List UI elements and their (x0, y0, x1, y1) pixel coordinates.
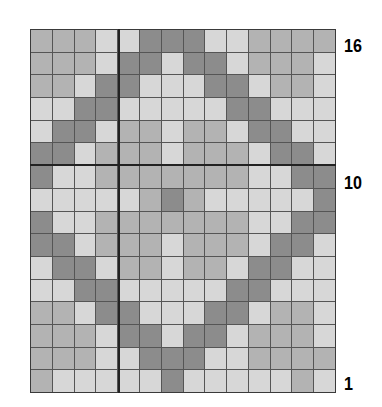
grid-cell (96, 280, 117, 302)
grid-cell (140, 30, 161, 52)
grid-cell (205, 280, 226, 302)
grid-cell (31, 234, 52, 256)
grid-cell (75, 212, 96, 234)
grid-cell (31, 348, 52, 370)
grid-cell (96, 30, 117, 52)
grid-cell (75, 143, 96, 165)
grid-cell (227, 121, 248, 143)
grid-divider-vertical (118, 29, 120, 393)
grid-cell (31, 325, 52, 347)
grid-cell (140, 121, 161, 143)
grid-cell (184, 189, 205, 211)
grid-cell (227, 257, 248, 279)
grid-cell (118, 280, 139, 302)
grid-cell (227, 143, 248, 165)
grid-cell (31, 280, 52, 302)
grid-cell (314, 348, 335, 370)
grid-cell (31, 121, 52, 143)
grid-cell (205, 325, 226, 347)
grid-cell (205, 212, 226, 234)
pattern-grid (30, 29, 336, 393)
grid-cell (96, 325, 117, 347)
grid-cell (184, 234, 205, 256)
grid-cell (140, 325, 161, 347)
grid-cell (314, 234, 335, 256)
grid-cell (227, 302, 248, 324)
grid-cell (314, 75, 335, 97)
grid-cell (249, 302, 270, 324)
grid-cell (118, 121, 139, 143)
grid-cell (184, 257, 205, 279)
grid-divider-horizontal (30, 164, 336, 166)
grid-cell (249, 257, 270, 279)
grid-cell (292, 325, 313, 347)
grid-cell (162, 189, 183, 211)
grid-cell (292, 302, 313, 324)
grid-cell (184, 98, 205, 120)
grid-cell (53, 325, 74, 347)
grid-cell (249, 370, 270, 392)
grid-cell (271, 143, 292, 165)
grid-cell (118, 30, 139, 52)
grid-cell (292, 98, 313, 120)
grid-cell (271, 257, 292, 279)
grid-cell (75, 370, 96, 392)
grid-cell (227, 325, 248, 347)
grid-cell (227, 348, 248, 370)
grid-cell (53, 280, 74, 302)
grid-cell (118, 325, 139, 347)
grid-cell (271, 325, 292, 347)
grid-cell (162, 98, 183, 120)
grid-cell (205, 53, 226, 75)
grid-cell (314, 370, 335, 392)
grid-cell (96, 75, 117, 97)
grid-cell (205, 348, 226, 370)
grid-cell (118, 348, 139, 370)
grid-cell (118, 257, 139, 279)
grid-cell (53, 75, 74, 97)
grid-cell (140, 234, 161, 256)
grid-cell (53, 234, 74, 256)
grid-cell (162, 30, 183, 52)
grid-cell (118, 234, 139, 256)
grid-cell (140, 257, 161, 279)
grid-cell (314, 280, 335, 302)
grid-cell (314, 212, 335, 234)
grid-cell (205, 143, 226, 165)
grid-cell (75, 30, 96, 52)
grid-cell (184, 325, 205, 347)
grid-cell (96, 53, 117, 75)
grid-cell (227, 53, 248, 75)
grid-cell (249, 121, 270, 143)
grid-cell (53, 143, 74, 165)
grid-cell (184, 280, 205, 302)
grid-cell (31, 189, 52, 211)
grid-cell (249, 348, 270, 370)
grid-cell (271, 189, 292, 211)
grid-cell (96, 143, 117, 165)
grid-cell (271, 302, 292, 324)
grid-cell (162, 166, 183, 188)
grid-cell (249, 75, 270, 97)
grid-cell (162, 75, 183, 97)
grid-cell (31, 257, 52, 279)
grid-cell (227, 75, 248, 97)
grid-cell (75, 166, 96, 188)
grid-cell (140, 75, 161, 97)
grid-cell (53, 30, 74, 52)
grid-cell (184, 143, 205, 165)
grid-cell (184, 302, 205, 324)
grid-cell (184, 212, 205, 234)
grid-cell (53, 189, 74, 211)
grid-cell (227, 370, 248, 392)
grid-cell (96, 166, 117, 188)
grid-cell (292, 257, 313, 279)
grid-cell (184, 75, 205, 97)
grid-cell (96, 302, 117, 324)
grid-cell (227, 166, 248, 188)
grid-cell (140, 166, 161, 188)
grid-cell (162, 121, 183, 143)
grid-cell (314, 302, 335, 324)
grid-cell (271, 53, 292, 75)
grid-cell (249, 30, 270, 52)
